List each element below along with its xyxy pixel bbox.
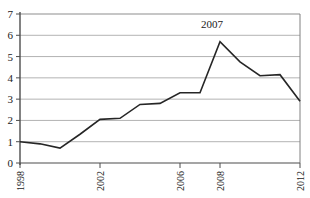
x-tick-label: 2006 [175, 171, 186, 191]
annotation-group: 2007 [201, 18, 224, 30]
y-tick-label: 6 [8, 29, 14, 41]
y-tick-label: 4 [8, 72, 14, 84]
y-tick-label: 3 [8, 93, 14, 105]
line-chart: 76543210 19982002200620082012 2007 [0, 0, 310, 198]
y-tick-label: 7 [8, 8, 14, 20]
x-tick-label: 2012 [295, 171, 306, 191]
y-tick-label: 1 [8, 136, 14, 148]
x-tick-label: 2002 [95, 171, 106, 191]
chart-canvas: 76543210 19982002200620082012 2007 [0, 0, 310, 198]
y-tick-label: 5 [8, 51, 14, 63]
annotation-text: 2007 [201, 18, 224, 30]
y-tick-label: 0 [8, 157, 14, 169]
x-tick-label: 1998 [15, 171, 26, 191]
y-tick-label: 2 [8, 114, 14, 126]
x-tick-label: 2008 [215, 171, 226, 191]
